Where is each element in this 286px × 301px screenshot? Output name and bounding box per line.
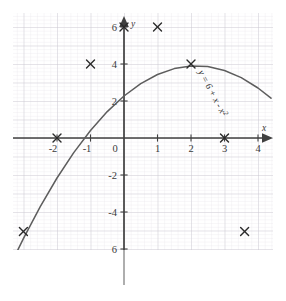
x-tick-label: 4 [255,143,261,154]
x-tick-label: -1 [83,143,92,154]
y-tick-label: 6 [112,22,117,33]
grid-background [13,13,273,250]
x-tick-label: 0 [112,143,117,154]
y-tick-label: 6 [112,244,117,255]
y-tick-label: 4 [112,59,118,70]
y-axis-label: y [130,19,136,29]
x-tick-label: 1 [155,143,160,154]
x-axis-label: x [261,123,267,133]
y-tick-label: -2 [108,170,117,181]
x-tick-label: -2 [49,143,58,154]
y-tick-label: -4 [108,207,117,218]
graph-figure: -2 -1 0 1 2 3 4 6 4 2 -2 -4 6 y x [0,0,286,301]
x-tick-label: 2 [188,143,193,154]
coordinate-plane: -2 -1 0 1 2 3 4 6 4 2 -2 -4 6 y x [0,0,286,301]
x-tick-label: 3 [222,143,227,154]
